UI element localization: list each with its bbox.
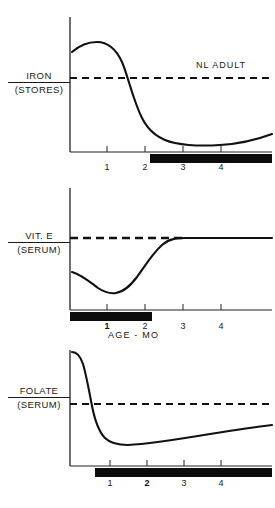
- panel-iron-curve: [72, 42, 272, 146]
- panel-iron-tick-4: 4: [218, 162, 223, 170]
- panel-vit-e-curve: [72, 238, 272, 293]
- panel-folate-ticks: [110, 460, 221, 466]
- panel-folate-y-label: FOLATE (SERUM): [8, 385, 70, 411]
- panel-iron-deficiency-bar: [150, 154, 272, 163]
- panel-iron-y-label-line2: (STORES): [8, 84, 70, 96]
- nl-adult-annotation: NL ADULT: [196, 60, 246, 70]
- panel-vit-e-y-label: VIT. E (SERUM): [8, 230, 70, 256]
- panel-iron-y-label-line1: IRON: [8, 70, 70, 83]
- panel-vit-e: VIT. E (SERUM) 1 2 3 4 AGE - MO: [0, 170, 275, 340]
- panel-iron: IRON (STORES) NL ADULT 1 2: [0, 0, 275, 170]
- panel-folate-deficiency-bar: [95, 468, 272, 477]
- panel-folate-y-label-line2: (SERUM): [8, 399, 70, 411]
- panel-folate: FOLATE (SERUM) 1 2 3 4: [0, 338, 275, 508]
- panel-iron-y-label: IRON (STORES): [8, 70, 70, 96]
- panel-vit-e-y-label-line2: (SERUM): [8, 244, 70, 256]
- panel-iron-ticks: [107, 146, 221, 152]
- panel-vit-e-deficiency-bar: [70, 312, 152, 321]
- panel-folate-curve: [72, 352, 272, 445]
- panel-folate-tick-1: 1: [107, 478, 112, 488]
- panel-vit-e-tick-3: 3: [180, 321, 185, 331]
- panel-folate-tick-4: 4: [218, 478, 223, 488]
- panel-iron-tick-2: 2: [142, 162, 147, 170]
- nutrient-deficiency-figure: IRON (STORES) NL ADULT 1 2: [0, 0, 275, 508]
- panel-folate-y-label-line1: FOLATE: [8, 385, 70, 398]
- panel-vit-e-y-label-line1: VIT. E: [8, 230, 70, 243]
- panel-folate-tick-2: 2: [144, 478, 149, 488]
- panel-folate-plot: 1 2 3 4: [0, 338, 275, 508]
- panel-iron-tick-1: 1: [104, 162, 109, 170]
- panel-iron-tick-3: 3: [180, 162, 185, 170]
- panel-folate-tick-3: 3: [181, 478, 186, 488]
- panel-vit-e-tick-4: 4: [218, 321, 223, 331]
- panel-vit-e-ticks: [107, 304, 221, 310]
